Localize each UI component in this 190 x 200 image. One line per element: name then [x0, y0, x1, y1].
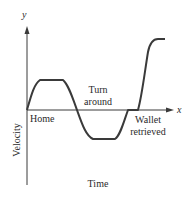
y-axis-arrow-icon — [25, 26, 30, 34]
annotation-home: Home — [30, 113, 55, 124]
velocity-time-chart: y x Velocity Time Home Turn around Walle… — [0, 0, 190, 200]
x-axis-arrow-icon — [166, 108, 174, 113]
y-axis-label: Velocity — [11, 123, 22, 156]
y-axis-symbol: y — [21, 9, 27, 20]
annotation-wallet-line2: retrieved — [130, 126, 166, 137]
x-axis-symbol: x — [176, 104, 182, 115]
annotation-turn-line2: around — [84, 96, 112, 107]
annotation-wallet-line1: Wallet — [135, 114, 161, 125]
annotation-turn-line1: Turn — [88, 84, 107, 95]
x-axis-label: Time — [88, 178, 109, 189]
